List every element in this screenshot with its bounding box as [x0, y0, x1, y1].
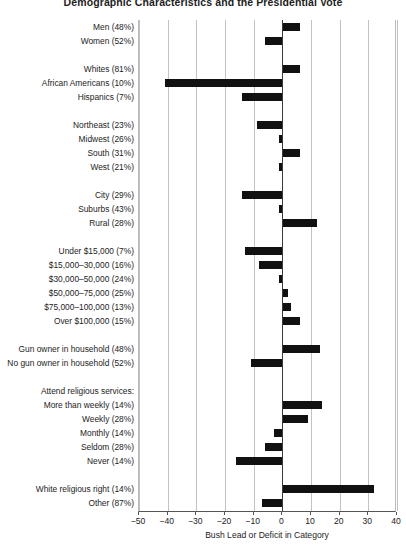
x-axis-tick-label: −50: [131, 514, 146, 528]
bar: [242, 93, 282, 101]
x-axis-tick-label: 30: [363, 514, 373, 528]
bar-row: [139, 440, 395, 454]
plot-area: [138, 20, 396, 512]
bar-row: [139, 426, 395, 440]
bar-row: [139, 188, 395, 202]
y-axis-label: White religious right (14%): [0, 482, 134, 496]
y-axis-label: $30,000–50,000 (24%): [0, 272, 134, 286]
bar: [282, 303, 291, 311]
bar-row: [139, 146, 395, 160]
bar-row: [139, 76, 395, 90]
y-axis-label: Men (48%): [0, 20, 134, 34]
x-axis-tick-labels: −50−40−30−20−10010203040: [138, 514, 396, 528]
y-axis-label: No gun owner in household (52%): [0, 356, 134, 370]
bar-row: [139, 244, 395, 258]
bar-row: [139, 314, 395, 328]
bar: [242, 191, 282, 199]
bar: [282, 415, 308, 423]
y-axis-label: Midwest (26%): [0, 132, 134, 146]
y-axis-label: Women (52%): [0, 34, 134, 48]
x-axis-tick-label: 10: [305, 514, 315, 528]
bar-row: [139, 300, 395, 314]
bar: [165, 79, 283, 87]
x-axis-tick-label: 40: [391, 514, 401, 528]
bar-row: [139, 160, 395, 174]
bar: [282, 485, 374, 493]
y-axis-label: More than weekly (14%): [0, 398, 134, 412]
bar: [265, 443, 282, 451]
bar: [245, 247, 282, 255]
bar-row: [139, 272, 395, 286]
y-axis-label: Under $15,000 (7%): [0, 244, 134, 258]
y-axis-label: Whites (81%): [0, 62, 134, 76]
y-axis-label: Suburbs (43%): [0, 202, 134, 216]
gridline: [397, 20, 398, 511]
y-axis-label: Northeast (23%): [0, 118, 134, 132]
y-axis-label: African Americans (10%): [0, 76, 134, 90]
bar-row: [139, 20, 395, 34]
x-axis-tick-label: −40: [159, 514, 174, 528]
y-axis-label: Never (14%): [0, 454, 134, 468]
x-axis-tick-label: −30: [188, 514, 203, 528]
x-axis-tick-label: 0: [279, 514, 284, 528]
bar-row: [139, 216, 395, 230]
bar: [265, 37, 282, 45]
bar-row: [139, 62, 395, 76]
bar: [257, 121, 283, 129]
y-axis-label: Gun owner in household (48%): [0, 342, 134, 356]
bar-row: [139, 118, 395, 132]
bar-row: [139, 342, 395, 356]
bar: [282, 345, 319, 353]
x-axis-label: Bush Lead or Deficit in Category: [138, 530, 396, 540]
bar: [259, 261, 282, 269]
y-axis-label: Hispanics (7%): [0, 90, 134, 104]
bar: [282, 219, 316, 227]
chart-title: Demographic Characteristics and the Pres…: [0, 0, 406, 8]
y-axis-label: Seldom (28%): [0, 440, 134, 454]
x-axis-tick-label: −10: [245, 514, 260, 528]
bar: [236, 457, 282, 465]
bar: [251, 359, 283, 367]
bar-row: [139, 398, 395, 412]
bar-row: [139, 90, 395, 104]
y-axis-label: Weekly (28%): [0, 412, 134, 426]
bar-row: [139, 34, 395, 48]
bar-row: [139, 356, 395, 370]
bar: [274, 429, 283, 437]
bar-row: [139, 132, 395, 146]
y-axis-label: South (31%): [0, 146, 134, 160]
y-axis-label: $15,000–30,000 (16%): [0, 258, 134, 272]
x-axis-tick-label: −20: [217, 514, 232, 528]
bar: [282, 401, 322, 409]
bar-row: [139, 412, 395, 426]
bar-row: [139, 258, 395, 272]
chart-root: Demographic Characteristics and the Pres…: [0, 0, 406, 550]
y-axis-label: City (29%): [0, 188, 134, 202]
bar: [282, 149, 299, 157]
zero-line: [282, 20, 283, 511]
bar-row: [139, 454, 395, 468]
bar-row: [139, 482, 395, 496]
bar: [282, 65, 299, 73]
bars-layer: [139, 20, 395, 511]
bar-row: [139, 496, 395, 510]
y-axis-label: Other (87%): [0, 496, 134, 510]
bar: [262, 499, 282, 507]
x-axis-tick-label: 20: [334, 514, 344, 528]
bar-row: [139, 202, 395, 216]
bar-row: [139, 286, 395, 300]
y-axis-label: $75,000–100,000 (13%): [0, 300, 134, 314]
y-axis-group-heading: Attend religious services:: [0, 384, 134, 398]
bar: [282, 317, 299, 325]
y-axis-label: Rural (28%): [0, 216, 134, 230]
y-axis-label: West (21%): [0, 160, 134, 174]
y-axis-label: Monthly (14%): [0, 426, 134, 440]
bar: [282, 23, 299, 31]
y-axis-label: Over $100,000 (15%): [0, 314, 134, 328]
y-axis-label: $50,000–75,000 (25%): [0, 286, 134, 300]
